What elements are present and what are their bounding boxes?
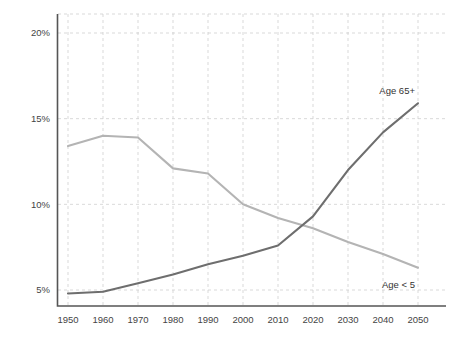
y-tick-label: 5% <box>36 284 50 295</box>
x-tick-label: 1990 <box>197 314 218 325</box>
y-tick-label: 20% <box>31 27 51 38</box>
data-series <box>68 103 418 293</box>
gridlines <box>58 14 446 306</box>
x-tick-label: 1980 <box>162 314 183 325</box>
x-tick-label: 2000 <box>232 314 253 325</box>
x-tick-label: 2040 <box>372 314 393 325</box>
chart-container: 5%10%15%20% 1950196019701980199020002010… <box>0 0 467 343</box>
series-annotation-age-5: Age < 5 <box>382 279 415 290</box>
x-tick-label: 2050 <box>407 314 428 325</box>
x-tick-label: 1950 <box>57 314 78 325</box>
x-tick-label: 1970 <box>127 314 148 325</box>
x-tick-label: 2010 <box>267 314 288 325</box>
axis-lines <box>58 14 447 306</box>
series-line-age-65 <box>68 103 418 293</box>
y-tick-label: 10% <box>31 199 51 210</box>
x-axis-tick-labels: 1950196019701980199020002010202020302040… <box>57 314 428 325</box>
x-tick-label: 2020 <box>302 314 323 325</box>
x-tick-label: 1960 <box>92 314 113 325</box>
series-annotation-age-65: Age 65+ <box>379 85 415 96</box>
axis-left-and-bottom <box>58 14 447 306</box>
line-chart: 5%10%15%20% 1950196019701980199020002010… <box>0 0 467 343</box>
y-tick-label: 15% <box>31 113 51 124</box>
y-axis-tick-labels: 5%10%15%20% <box>31 27 51 295</box>
x-tick-label: 2030 <box>337 314 358 325</box>
